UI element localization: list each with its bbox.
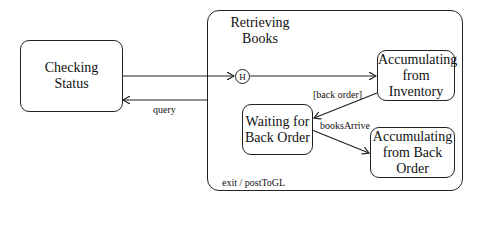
accumulating-back-order-label: Accumulating from Back Order	[372, 129, 454, 177]
books-arrive-transition-label: booksArrive	[320, 120, 370, 131]
accumulating-inventory-label: Accumulating from Inventory	[378, 52, 454, 100]
history-icon: H	[239, 72, 246, 82]
checking-status-state[interactable]: Checking Status	[20, 40, 123, 112]
history-pseudostate[interactable]: H	[235, 69, 250, 84]
waiting-back-order-state[interactable]: Waiting for Back Order	[242, 104, 313, 155]
exit-action-label: exit / postToGL	[222, 177, 285, 188]
query-transition-label: query	[153, 104, 176, 115]
accumulating-back-order-state[interactable]: Accumulating from Back Order	[370, 127, 455, 178]
back-order-guard-label: [back order]	[313, 89, 362, 100]
accumulating-inventory-state[interactable]: Accumulating from Inventory	[377, 50, 455, 101]
waiting-back-order-label: Waiting for Back Order	[244, 114, 312, 146]
checking-status-label: Checking Status	[37, 60, 107, 92]
